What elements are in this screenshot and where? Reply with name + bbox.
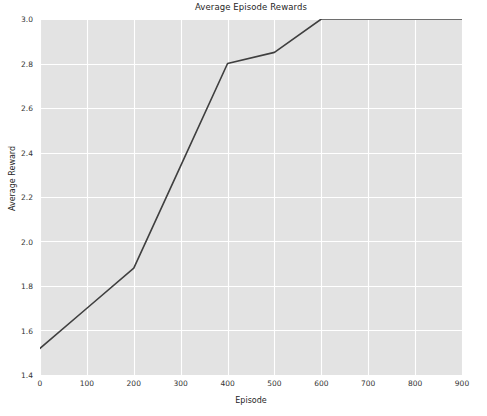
y-tick-label: 3.0 <box>21 15 33 24</box>
y-axis-tick-labels: 1.41.61.82.02.22.42.62.83.0 <box>0 19 33 375</box>
y-tick-label: 1.8 <box>21 282 33 291</box>
y-tick-label: 1.4 <box>21 371 33 380</box>
x-axis-tick-labels: 0100200300400500600700800900 <box>40 375 462 395</box>
y-tick-label: 2.2 <box>21 193 33 202</box>
horizontal-gridlines <box>40 20 462 376</box>
x-tick-label: 900 <box>455 379 469 388</box>
chart-title: Average Episode Rewards <box>40 2 462 12</box>
x-axis-label: Episode <box>40 396 462 405</box>
x-tick-label: 700 <box>361 379 375 388</box>
series-line <box>40 19 462 348</box>
x-tick-label: 200 <box>127 379 141 388</box>
x-tick-label: 800 <box>408 379 422 388</box>
data-series-group <box>40 19 462 348</box>
y-tick-label: 1.6 <box>21 326 33 335</box>
y-tick-label: 2.6 <box>21 104 33 113</box>
plot-area <box>40 19 462 375</box>
y-tick-label: 2.0 <box>21 237 33 246</box>
y-tick-label: 2.4 <box>21 148 33 157</box>
x-tick-label: 0 <box>38 379 43 388</box>
y-tick-label: 2.8 <box>21 59 33 68</box>
x-tick-label: 100 <box>80 379 94 388</box>
plot-svg <box>40 19 462 375</box>
x-tick-label: 500 <box>267 379 281 388</box>
x-tick-label: 600 <box>314 379 328 388</box>
x-tick-label: 400 <box>220 379 234 388</box>
x-tick-label: 300 <box>173 379 187 388</box>
chart-figure: Average Episode Rewards Average Reward 1… <box>0 0 487 416</box>
